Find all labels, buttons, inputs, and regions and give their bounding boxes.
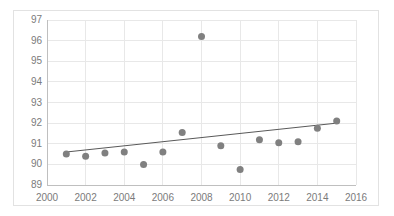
data-point-marker <box>101 150 108 157</box>
y-tick-label: 93 <box>16 98 42 108</box>
data-point-marker <box>275 139 282 146</box>
data-point-marker <box>82 153 89 160</box>
x-tick-label: 2006 <box>143 193 183 203</box>
chart-canvas <box>14 11 378 205</box>
data-point-marker <box>314 125 321 132</box>
y-tick-label: 92 <box>16 118 42 128</box>
y-tick-label: 91 <box>16 139 42 149</box>
data-point-marker <box>237 166 244 173</box>
y-tick-label: 95 <box>16 56 42 66</box>
data-point-marker <box>198 33 205 40</box>
data-point-marker <box>159 149 166 156</box>
x-tick-label: 2000 <box>27 193 67 203</box>
data-point-marker <box>179 129 186 136</box>
data-point-marker <box>140 161 147 168</box>
x-tick-label: 2012 <box>259 193 299 203</box>
y-tick-label: 96 <box>16 36 42 46</box>
data-point-marker <box>333 118 340 125</box>
data-point-marker <box>295 138 302 145</box>
x-tick-label: 2016 <box>336 193 376 203</box>
data-point-marker <box>63 151 70 158</box>
x-tick-label: 2002 <box>66 193 106 203</box>
scatter-chart: 899091929394959697 200020022004200620082… <box>0 0 394 216</box>
x-tick-label: 2014 <box>297 193 337 203</box>
x-tick-label: 2004 <box>104 193 144 203</box>
data-point-marker <box>256 136 263 143</box>
y-tick-label: 90 <box>16 159 42 169</box>
data-point-marker <box>217 142 224 149</box>
data-point-marker <box>121 149 128 156</box>
x-tick-label: 2010 <box>220 193 260 203</box>
y-tick-label: 97 <box>16 15 42 25</box>
chart-plot-frame: 899091929394959697 200020022004200620082… <box>13 10 379 206</box>
x-tick-label: 2008 <box>182 193 222 203</box>
y-tick-label: 89 <box>16 180 42 190</box>
y-tick-label: 94 <box>16 77 42 87</box>
